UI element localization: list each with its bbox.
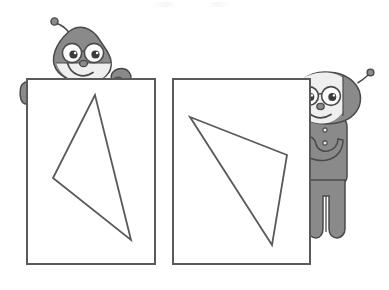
right-character-nose-icon <box>317 103 324 109</box>
right-panel-surface <box>173 79 310 264</box>
left-character-head <box>54 27 112 82</box>
left-character-right-eye-icon <box>84 43 103 62</box>
left-character-nose-icon <box>80 60 88 66</box>
right-character-hat-stem <box>358 75 369 84</box>
right-character-right-eye-icon <box>322 87 341 106</box>
left-panel-surface <box>27 79 155 264</box>
right-panel <box>173 79 310 264</box>
right-character-button-bottom-icon <box>323 141 327 145</box>
left-character-hat-stem <box>57 24 70 33</box>
right-character-button-top-icon <box>323 128 327 132</box>
illustration-canvas: Two cartoon gnome characters holding pan… <box>0 0 389 290</box>
left-panel <box>27 79 155 264</box>
illustration-svg <box>0 0 389 290</box>
left-character-left-eye-icon <box>62 43 81 62</box>
